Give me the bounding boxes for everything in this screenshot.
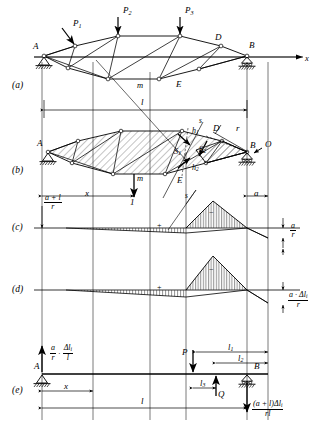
panel-e-left-reaction-label: a r · Δli l	[50, 344, 73, 362]
lever-label-h1: h1	[192, 127, 199, 136]
force-label-S2: S2	[199, 145, 206, 155]
node-label-A-b: A	[37, 139, 43, 148]
panel-e-dim-label-x: x	[64, 382, 68, 391]
section-label-s-bottom: s	[185, 192, 188, 200]
load-label-P2: P2	[123, 6, 132, 16]
panel-c-overhang-line	[186, 228, 268, 238]
panel-d-right-ordinate-label: a · Δli r	[288, 291, 308, 309]
node-label-O-b: O	[265, 140, 272, 149]
projection-lines	[42, 62, 268, 420]
panel-e-dim-label-l2: l2	[238, 354, 243, 364]
node-label-B-e: B	[254, 362, 260, 371]
panel-d-overhang-line	[186, 290, 268, 303]
panel-label-d: (d)	[12, 284, 23, 294]
panel-label-a: (a)	[12, 80, 23, 90]
node-label-D-b: D	[213, 124, 220, 133]
node-label-E-b: E	[177, 176, 183, 185]
dim-label-a-b: a	[254, 189, 259, 198]
panel-e-load-label-Q: Q	[218, 390, 225, 399]
panel-e-right-reaction-label: (a + l)Δli rl	[252, 400, 283, 418]
panel-d-sign-positive: +	[157, 284, 162, 292]
panel-a-lower-chord	[44, 56, 247, 79]
figure-canvas: (a) (b) (c) (d) (e) P1 P2 P3 A B D m E x…	[0, 0, 320, 431]
axis-label-x: x	[305, 54, 309, 63]
load-label-P1: P1	[73, 19, 82, 29]
force-label-S1: S1	[174, 147, 181, 157]
node-label-D-a: D	[215, 33, 222, 42]
panel-e-dim-label-l: l	[141, 397, 144, 406]
panel-c-sign-negative: −	[209, 209, 214, 217]
dim-label-x-b: x	[85, 189, 89, 198]
panel-e-dim-label-l3: l3	[200, 379, 205, 389]
dim-label-l-b: l	[141, 98, 144, 107]
node-label-A-a: A	[33, 42, 39, 51]
radius-label-r: r	[236, 124, 240, 133]
panel-d-negative-fill	[186, 256, 247, 290]
load-label-P3: P3	[185, 6, 194, 16]
panel-c-sign-positive: +	[157, 222, 162, 230]
panel-c-influence-line	[34, 190, 300, 248]
lever-label-h2: h2	[192, 164, 199, 173]
node-label-m-a: m	[137, 81, 143, 90]
panel-d-sign-negative: −	[209, 266, 214, 274]
node-label-B-a: B	[249, 41, 255, 50]
panel-c-left-ordinate-label: a + l r	[44, 194, 62, 212]
section-label-s-top: s	[199, 117, 202, 125]
diagram-svg	[0, 0, 320, 431]
panel-b-truss	[40, 60, 263, 230]
panel-d-influence-line	[34, 249, 300, 313]
unit-load-label-b: 1	[130, 198, 135, 207]
panel-label-e: (e)	[12, 385, 23, 395]
node-label-A-e: A	[34, 362, 40, 371]
panel-c-negative-fill	[186, 201, 247, 228]
panel-c-right-ordinate-label: a r	[290, 222, 296, 240]
node-label-B-b: B	[250, 141, 256, 150]
panel-label-b: (b)	[12, 165, 23, 175]
node-label-E-a: E	[176, 80, 182, 89]
panel-e-load-label-P: P	[182, 348, 188, 357]
panel-label-c: (c)	[12, 222, 23, 232]
panel-e-dim-label-l1: l1	[228, 343, 233, 353]
node-label-m-b: m	[137, 174, 143, 183]
